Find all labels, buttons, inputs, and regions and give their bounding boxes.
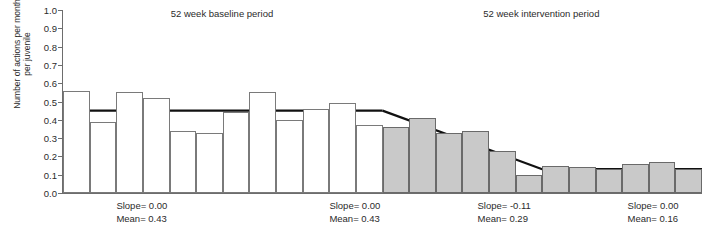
bar (542, 166, 569, 193)
bar (90, 122, 117, 193)
bar (356, 125, 383, 193)
y-tick-label: 0.7 (17, 59, 57, 70)
y-tick-label: 1.0 (17, 5, 57, 16)
bar (675, 169, 702, 193)
bar (303, 109, 330, 193)
bar (409, 118, 436, 193)
bar (489, 151, 516, 193)
bar (276, 120, 303, 193)
phase-slope-2: Slope= 0.00 (329, 200, 380, 213)
y-tick-label: 0.6 (17, 78, 57, 89)
bar (223, 112, 250, 193)
phase-mean-3: Mean= 0.29 (477, 213, 530, 226)
bar (383, 127, 410, 193)
bar (649, 162, 676, 193)
phase-mean-4: Mean= 0.16 (628, 213, 679, 226)
bar (329, 103, 356, 193)
y-tick-label: 0.4 (17, 114, 57, 125)
phase-stats-1: Slope= 0.00 Mean= 0.43 (116, 200, 167, 225)
bar (596, 169, 623, 193)
bar (143, 98, 170, 193)
bar (622, 164, 649, 193)
y-tick-label: 0.9 (17, 23, 57, 34)
bar (63, 91, 90, 193)
y-tick-label: 0.1 (17, 169, 57, 180)
chart-figure: Number of actions per month per juvenile… (0, 0, 705, 238)
period-label-baseline: 52 week baseline period (171, 8, 273, 19)
bar (249, 92, 276, 193)
phase-mean-2: Mean= 0.43 (329, 213, 380, 226)
phase-stats-4: Slope= 0.00 Mean= 0.16 (628, 200, 679, 225)
y-tick-label: 0.2 (17, 151, 57, 162)
phase-slope-4: Slope= 0.00 (628, 200, 679, 213)
y-tick-label: 0.3 (17, 133, 57, 144)
bar (462, 131, 489, 193)
phase-slope-1: Slope= 0.00 (116, 200, 167, 213)
plot-area: 1.00.90.80.70.60.50.40.30.20.10.0 (62, 10, 702, 194)
bar (516, 175, 543, 193)
bar (196, 133, 223, 193)
y-tick-label: 0.0 (17, 188, 57, 199)
bar (116, 92, 143, 193)
phase-stats-3: Slope= -0.11 Mean= 0.29 (477, 200, 530, 225)
y-tick-label: 0.8 (17, 41, 57, 52)
y-tick-label: 0.5 (17, 96, 57, 107)
phase-mean-1: Mean= 0.43 (116, 213, 167, 226)
phase-stats-2: Slope= 0.00 Mean= 0.43 (329, 200, 380, 225)
period-label-intervention: 52 week intervention period (483, 8, 599, 19)
bar (436, 133, 463, 193)
phase-slope-3: Slope= -0.11 (477, 200, 530, 213)
bar (569, 167, 596, 193)
bar (170, 131, 197, 193)
